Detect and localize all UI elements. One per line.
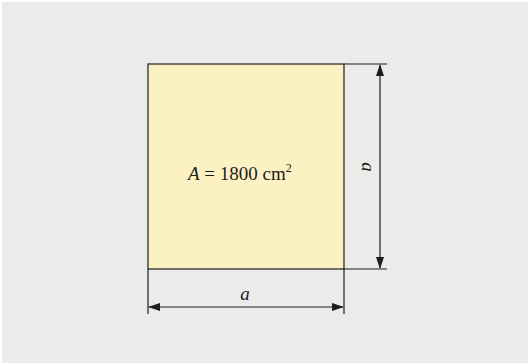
square-area-diagram: A = 1800 cm2 a a [0, 0, 528, 363]
area-label: A = 1800 cm2 [186, 161, 292, 184]
side-label-bottom: a [240, 283, 250, 304]
area-exponent: 2 [286, 161, 292, 175]
area-value: = 1800 cm [200, 163, 286, 184]
figure-canvas: A = 1800 cm2 a a [0, 0, 528, 363]
area-variable: A [186, 163, 200, 184]
side-label-right: a [358, 162, 379, 172]
